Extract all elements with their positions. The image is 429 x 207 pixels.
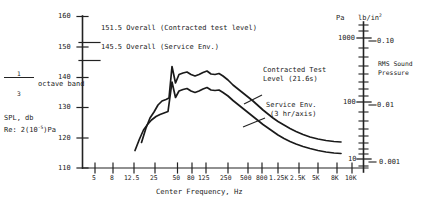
y-axis-title-line3: Re: 2(10-5)Pa	[4, 126, 82, 134]
y-tick-label-120: 120	[58, 134, 71, 142]
y-axis-title-line2: SPL, db	[4, 114, 82, 122]
y-axis-title: 1 3 octave band SPL, db Re: 2(10-5)Pa	[4, 58, 82, 134]
right-tick-label-0-01: 0.01	[377, 101, 394, 109]
x-tick-label-50: 50	[173, 175, 181, 182]
x-tick-label-80: 80	[187, 175, 195, 182]
x-tick-label-25: 25	[150, 175, 158, 182]
annotation-service-line2: (3 hr/axis)	[270, 110, 316, 118]
x-tick-label-10K: 10K	[345, 175, 357, 182]
x-tick-label-12-5: 12.5	[124, 175, 139, 182]
x-tick-label-800: 800	[256, 175, 268, 182]
y-tick-label-110: 110	[58, 164, 71, 172]
x-tick-label-1-25K: 1.25K	[269, 175, 288, 182]
annotation-overall-service: 145.5 Overall (Service Env.)	[101, 43, 219, 51]
chart-figure: 160 150 140 130 120 110 1 3 octave band …	[0, 0, 429, 207]
annotation-overall-contracted: 151.5 Overall (Contracted test level)	[101, 24, 257, 32]
one-third-fraction: 1 3	[4, 58, 34, 110]
right-tick-label-10: 10	[348, 155, 356, 163]
right-axis-title-line1: RMS Sound	[378, 61, 413, 68]
y-axis-title-line1: octave band	[34, 80, 85, 88]
right-axis-unit-pa: Pa	[336, 14, 344, 22]
annotation-service-line1: Service Env.	[266, 101, 317, 109]
x-tick-label-8: 8	[110, 175, 114, 182]
x-tick-label-8K: 8K	[331, 175, 339, 182]
annotation-contracted-line1: Contracted Test	[263, 66, 326, 74]
right-tick-label-0-10: 0.10	[377, 37, 394, 45]
right-axis-unit-psi: lb/in2	[358, 14, 382, 22]
x-axis-title: Center Frequency, Hz	[156, 188, 243, 196]
right-tick-label-0-001: 0.001	[379, 158, 400, 166]
right-axis-title-line2: Pressure	[378, 70, 409, 77]
x-tick-label-500: 500	[240, 175, 252, 182]
y-tick-label-150: 150	[58, 43, 71, 51]
x-tick-label-250: 250	[220, 175, 232, 182]
right-tick-label-1000: 1000	[338, 34, 355, 42]
x-tick-label-5: 5	[92, 175, 96, 182]
x-tick-label-2-5K: 2.5K	[290, 175, 305, 182]
annotation-contracted-line2: Level (21.6s)	[263, 75, 318, 83]
x-tick-label-5K: 5K	[312, 175, 320, 182]
x-tick-label-125: 125	[198, 175, 210, 182]
y-tick-label-160: 160	[58, 12, 71, 20]
right-tick-label-100: 100	[343, 98, 356, 106]
